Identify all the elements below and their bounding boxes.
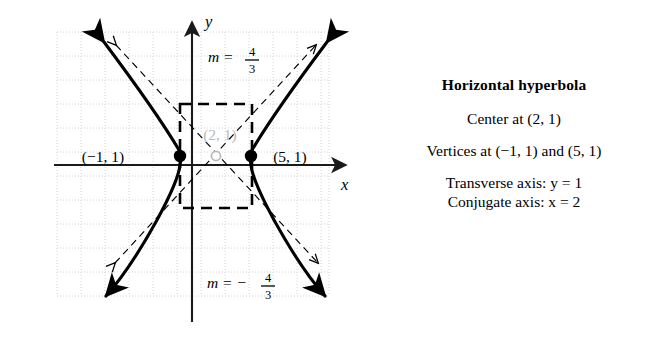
hyperbola-graph: y x (−1, 1) (5, 1) (2, 1)	[0, 0, 370, 347]
vertex-right-label: (5, 1)	[273, 148, 307, 166]
hyperbola-description-panel: Horizontal hyperbola Center at (2, 1) Ve…	[372, 76, 656, 211]
slope-negative-numerator: 4	[265, 271, 272, 285]
center-point	[211, 151, 220, 160]
vertex-left-point	[174, 150, 186, 162]
x-axis-label: x	[340, 175, 349, 194]
panel-center-line: Center at (2, 1)	[372, 110, 656, 128]
panel-title: Horizontal hyperbola	[372, 76, 656, 94]
slope-negative-denominator: 3	[265, 288, 271, 302]
slope-positive-denominator: 3	[249, 62, 255, 76]
slope-negative-prefix: m = −	[207, 274, 247, 291]
figure-page: y x (−1, 1) (5, 1) (2, 1)	[0, 0, 656, 347]
panel-vertices-line: Vertices at (−1, 1) and (5, 1)	[372, 142, 656, 160]
slope-negative-label: m = − 4 3	[207, 271, 275, 302]
hyperbola-left-branch	[104, 42, 181, 296]
slope-positive-prefix: m =	[208, 48, 234, 65]
panel-conjugate-axis-line: Conjugate axis: x = 2	[372, 193, 656, 211]
vertex-left-label: (−1, 1)	[82, 148, 124, 166]
center-label: (2, 1)	[203, 126, 237, 144]
slope-positive-numerator: 4	[249, 45, 256, 59]
hyperbola-figure-panel: y x (−1, 1) (5, 1) (2, 1)	[0, 0, 370, 347]
panel-transverse-axis-line: Transverse axis: y = 1	[372, 174, 656, 192]
vertex-right-point	[245, 150, 257, 162]
slope-positive-label: m = 4 3	[208, 45, 259, 76]
y-axis-label: y	[203, 12, 213, 31]
